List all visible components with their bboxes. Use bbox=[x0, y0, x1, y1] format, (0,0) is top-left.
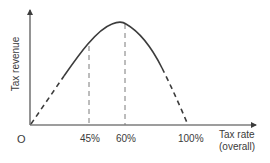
y-axis-label: Tax revenue bbox=[10, 37, 21, 91]
x-axis-label-line1: Tax rate bbox=[219, 129, 255, 141]
x-tick-45: 45% bbox=[80, 134, 100, 144]
x-axis-label-line2: (overall) bbox=[219, 141, 255, 153]
origin-label: O bbox=[17, 134, 26, 145]
x-tick-100: 100% bbox=[178, 134, 204, 144]
curve-dashed-right bbox=[162, 68, 188, 125]
curve-dashed-left bbox=[31, 76, 64, 124]
curve-solid bbox=[64, 22, 162, 76]
x-tick-60: 60% bbox=[116, 134, 136, 144]
x-axis-label: Tax rate (overall) bbox=[219, 129, 255, 153]
